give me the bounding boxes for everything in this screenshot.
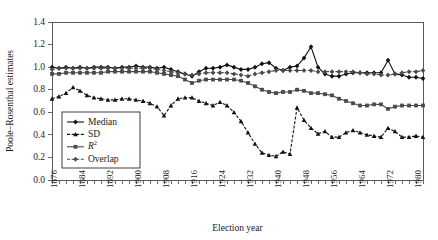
marker-triangle (57, 94, 62, 98)
marker-diamond (232, 71, 237, 76)
marker-diamond (211, 66, 216, 71)
y-tick-label: 1.0 (33, 62, 45, 72)
marker-square (71, 71, 75, 75)
marker-triangle (358, 130, 363, 134)
marker-diamond (246, 74, 251, 79)
marker-square (316, 91, 320, 95)
marker-square (190, 81, 194, 85)
marker-square (239, 79, 243, 83)
legend-label: Overlap (88, 154, 119, 164)
x-tick-label: 1884 (77, 170, 87, 189)
marker-triangle (225, 103, 230, 107)
marker-diamond (204, 70, 209, 75)
marker-diamond (281, 68, 286, 73)
marker-square (288, 90, 292, 94)
marker-square (85, 71, 89, 75)
marker-diamond (260, 61, 265, 66)
x-tick-label: 1876 (49, 170, 59, 189)
marker-diamond (57, 66, 62, 71)
series-line-2 (52, 72, 423, 109)
x-tick-label: 1908 (161, 170, 171, 189)
marker-square (99, 71, 103, 75)
marker-square (295, 88, 299, 92)
marker-diamond (421, 76, 426, 81)
marker-triangle (92, 95, 97, 99)
marker-square (246, 81, 250, 85)
poole-rosenthal-line-chart: 0.00.20.40.60.81.01.21.4Poole–Rosenthal … (0, 0, 438, 240)
marker-diamond (414, 69, 419, 74)
marker-diamond (393, 71, 398, 76)
marker-diamond (316, 69, 321, 74)
marker-triangle (281, 149, 286, 153)
marker-square (407, 104, 411, 108)
marker-diamond (246, 67, 251, 72)
series-median (50, 44, 426, 81)
y-tick-label: 0.4 (33, 130, 45, 140)
y-tick-label: 0.2 (33, 152, 45, 162)
marker-square (204, 78, 208, 82)
legend-label: Median (88, 117, 117, 127)
marker-diamond (225, 70, 230, 75)
x-tick-label: 1932 (245, 170, 255, 188)
marker-diamond (288, 68, 293, 73)
marker-square (197, 79, 201, 83)
marker-square (57, 72, 61, 76)
marker-triangle (295, 105, 300, 109)
marker-triangle (407, 135, 412, 139)
y-tick-label: 1.4 (33, 17, 45, 27)
chart-legend: MedianSDR2Overlap (62, 112, 140, 168)
marker-triangle (85, 93, 90, 97)
marker-square (379, 102, 383, 106)
marker-square (323, 92, 327, 96)
marker-triangle (71, 85, 76, 89)
marker-diamond (302, 68, 307, 73)
marker-triangle (218, 100, 223, 104)
x-tick-label: 1916 (189, 170, 199, 189)
x-tick-label: 1964 (357, 170, 367, 189)
marker-diamond (253, 71, 258, 76)
x-tick-label: 1924 (217, 170, 227, 189)
marker-square (281, 90, 285, 94)
marker-square (330, 93, 334, 97)
marker-square (365, 104, 369, 108)
x-tick-label: 1956 (329, 170, 339, 189)
marker-square (78, 71, 82, 75)
marker-diamond (225, 62, 230, 67)
x-tick-label: 1980 (413, 170, 423, 189)
marker-square (274, 91, 278, 95)
x-tick-label: 1940 (273, 170, 283, 189)
marker-square (302, 89, 306, 93)
marker-triangle (386, 126, 391, 130)
marker-diamond (309, 68, 314, 73)
marker-square (218, 78, 222, 82)
y-tick-label: 0.0 (33, 175, 45, 185)
marker-square (64, 71, 68, 75)
marker-square (232, 78, 236, 82)
marker-diamond (218, 65, 223, 70)
marker-diamond (337, 74, 342, 79)
marker-square (386, 107, 390, 111)
marker-square (358, 104, 362, 108)
x-axis-title: Election year (212, 223, 263, 233)
marker-square (309, 91, 313, 95)
marker-diamond (386, 73, 391, 78)
marker-square (344, 99, 348, 103)
marker-diamond (211, 70, 216, 75)
legend-label: SD (88, 129, 100, 139)
marker-triangle (253, 141, 258, 145)
marker-diamond (295, 68, 300, 73)
x-tick-label: 1900 (133, 170, 143, 189)
marker-diamond (414, 75, 419, 80)
marker-triangle (337, 135, 342, 139)
marker-triangle (64, 91, 69, 95)
marker-square (74, 145, 78, 149)
marker-square (253, 84, 257, 88)
marker-diamond (267, 69, 272, 74)
marker-diamond (407, 75, 412, 80)
series-r- (50, 70, 425, 111)
marker-square (92, 71, 96, 75)
marker-triangle (246, 130, 251, 134)
x-tick-label: 1892 (105, 170, 115, 188)
marker-triangle (330, 135, 335, 139)
marker-diamond (239, 67, 244, 72)
